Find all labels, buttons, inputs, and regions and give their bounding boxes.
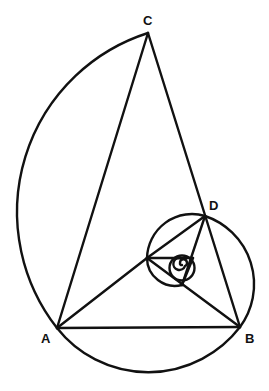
arc-C-A xyxy=(17,33,148,328)
segment-AC xyxy=(57,33,148,328)
spiral-arcs xyxy=(17,33,254,372)
segment-DE xyxy=(147,216,205,258)
label-A: A xyxy=(41,332,50,345)
inner-spiral xyxy=(173,258,187,270)
label-C: C xyxy=(143,14,152,27)
label-B: B xyxy=(245,332,254,345)
segment-AE xyxy=(57,258,147,328)
segment-AB xyxy=(57,327,240,328)
triangle-lines xyxy=(57,33,240,328)
arc-B-D xyxy=(205,216,254,327)
arc-A-B xyxy=(57,327,240,372)
label-D: D xyxy=(209,199,218,212)
